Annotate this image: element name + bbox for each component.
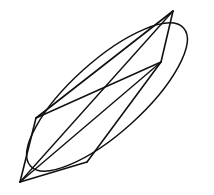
diagonal-B-D	[20, 62, 161, 182]
line-drawing-svg	[0, 0, 214, 195]
figure-canvas	[0, 0, 214, 195]
diagonal-A-D	[20, 11, 173, 182]
edge-C-B	[87, 62, 161, 162]
diagonal-B-E	[36, 62, 161, 118]
